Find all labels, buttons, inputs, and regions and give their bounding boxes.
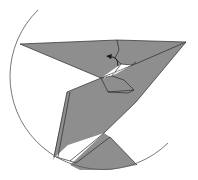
paper-model (20, 40, 186, 170)
origami-diagram: .paper { fill: #8e8e8e; } .ln { fill: no… (0, 0, 198, 180)
